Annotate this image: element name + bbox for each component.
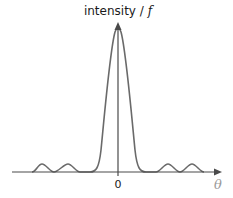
diffraction-diagram: intensity / f 0 θ — [0, 0, 233, 198]
origin-label: 0 — [112, 178, 124, 191]
diagram-canvas — [0, 0, 233, 198]
x-axis-arrow-icon — [214, 169, 222, 176]
y-axis-label-text: intensity / — [84, 4, 148, 18]
y-axis-arrow-icon — [115, 22, 122, 30]
y-axis-label-variable: f — [148, 4, 152, 18]
y-axis-label: intensity / f — [68, 4, 168, 18]
x-axis-label: θ — [211, 177, 225, 192]
